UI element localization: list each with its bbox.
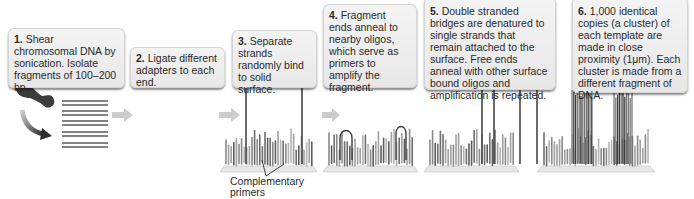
step-5-box: 5. Double stranded bridges are denatured… xyxy=(424,0,556,90)
flow-arrow-icon xyxy=(219,108,240,122)
complementary-primers-label: Complementary primers xyxy=(230,176,310,198)
step-1-box: 1. Shear chromosomal DNA by sonication. … xyxy=(8,28,125,88)
step-2-box: 2. Ligate different adapters to each end… xyxy=(130,47,225,88)
flow-arrow-icon xyxy=(322,108,340,122)
step-text: 1,000 identical copies (a cluster) of ea… xyxy=(578,5,681,101)
step-number: 2. xyxy=(136,52,145,64)
step-text: Ligate different adapters to each end. xyxy=(136,52,217,88)
step-text: Separate strands randomly bind to solid … xyxy=(238,35,304,95)
step-number: 4. xyxy=(329,9,338,21)
step-4-box: 4. Fragment ends anneal to nearby oligos… xyxy=(323,4,417,88)
step-6-box: 6. 1,000 identical copies (a cluster) of… xyxy=(572,0,688,93)
step-number: 1. xyxy=(14,33,23,45)
step-text: Fragment ends anneal to nearby oligos, w… xyxy=(329,9,398,93)
step-number: 3. xyxy=(238,35,247,47)
adapter-ligated-fragments xyxy=(136,101,213,147)
dna-fragments xyxy=(62,101,108,147)
step-text: Shear chromosomal DNA by sonication. Iso… xyxy=(14,33,116,93)
step-text: Double stranded bridges are denatured to… xyxy=(430,5,547,101)
flowcell-surface xyxy=(220,166,655,172)
step-number: 6. xyxy=(578,5,587,17)
step-3-box: 3. Separate strands randomly bind to sol… xyxy=(232,30,317,88)
curved-arrow-icon xyxy=(22,110,52,140)
step-number: 5. xyxy=(430,5,439,17)
flow-arrow-icon xyxy=(112,108,133,122)
